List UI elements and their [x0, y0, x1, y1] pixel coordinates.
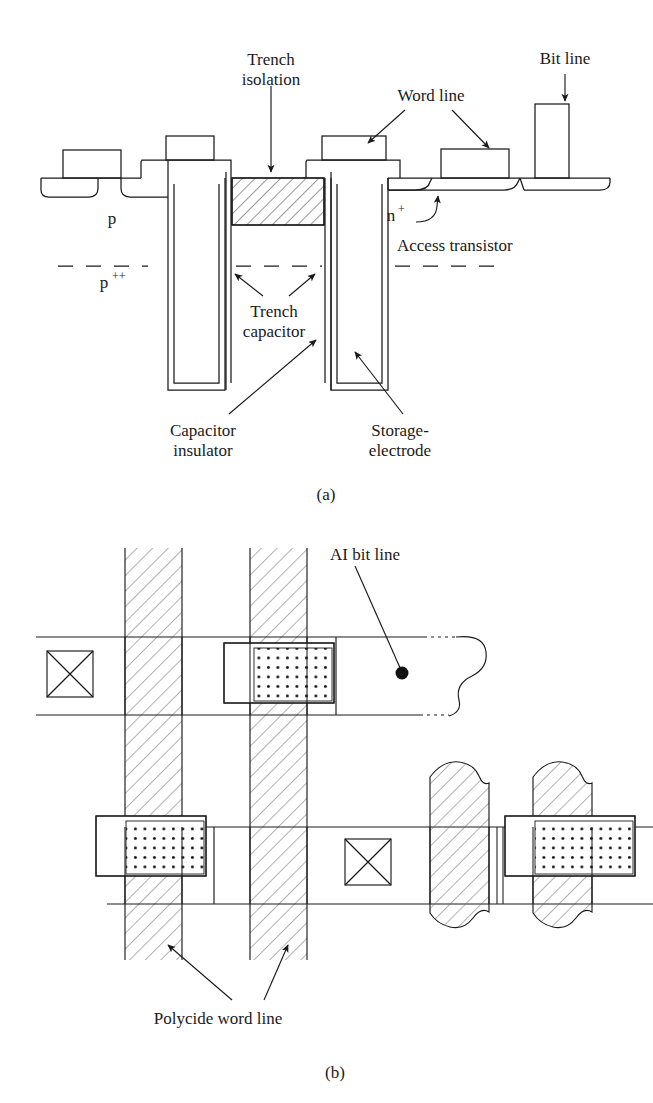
label-p-region: p [108, 209, 117, 228]
panel-b-caption: (b) [325, 1063, 345, 1082]
label-al-bit-line: AI bit line [330, 545, 400, 564]
contact-cross-box-lower-middle [345, 839, 391, 885]
label-storage-electrode-line2: electrode [369, 441, 431, 460]
polycide-word-line-1 [125, 548, 182, 960]
label-storage-electrode-line1: Storage- [371, 421, 429, 440]
label-trench-capacitor-line2: capacitor [243, 322, 306, 341]
label-word-line: Word line [397, 86, 464, 105]
polycide-word-line-3-broken [430, 762, 489, 928]
label-capacitor-insulator-line2: insulator [173, 441, 233, 460]
dram-trench-capacitor-figure: Trench isolation Word line Bit line p p … [0, 0, 653, 1103]
label-bit-line: Bit line [540, 49, 591, 68]
storage-node-lower-right [505, 816, 635, 876]
label-trench-isolation-line1: Trench [247, 50, 295, 69]
storage-node-upper [224, 637, 336, 715]
panel-a-caption: (a) [317, 485, 336, 504]
label-trench-capacitor-line1: Trench [250, 302, 298, 321]
label-polycide-word-line: Polycide word line [154, 1009, 282, 1028]
polycide-word-line-2 [250, 548, 307, 960]
label-n-plus-sup: + [398, 202, 405, 216]
al-bit-line-marker-dot [396, 667, 409, 680]
label-trench-isolation-line2: isolation [242, 70, 301, 89]
label-capacitor-insulator-line1: Capacitor [170, 421, 236, 440]
trench-isolation-block [232, 178, 324, 225]
label-p-plus-plus-sup: ++ [112, 269, 126, 283]
label-access-transistor: Access transistor [397, 236, 513, 255]
label-n-plus-base: n [387, 206, 396, 225]
label-p-plus-plus-base: p [100, 273, 109, 292]
figure-background [0, 0, 653, 1103]
